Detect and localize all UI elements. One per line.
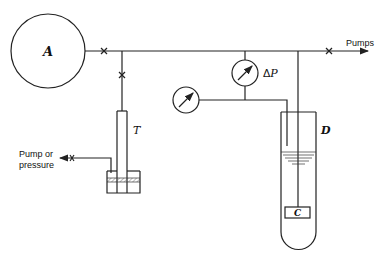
apparatus-diagram: A Pumps T xyxy=(0,0,385,263)
gauge-to-dewar-line xyxy=(199,100,287,146)
tube-t-label: T xyxy=(133,124,142,137)
pressure-gauge xyxy=(173,87,199,113)
sample-container-c: C xyxy=(285,207,310,218)
dewar-d: D xyxy=(281,112,331,250)
pump-or-pressure-label-line1: Pump or xyxy=(19,149,53,159)
delta-p-label: ΔP xyxy=(263,67,278,80)
pumps-label: Pumps xyxy=(346,38,375,48)
dewar-d-label: D xyxy=(320,124,331,137)
sample-c-label: C xyxy=(294,208,302,218)
differential-pressure-gauge: ΔP xyxy=(232,51,278,100)
liquid-reservoir xyxy=(107,171,140,193)
pump-or-pressure-label-line2: pressure xyxy=(19,160,54,170)
vessel-a: A xyxy=(11,14,85,88)
pump-or-pressure-line xyxy=(60,158,111,173)
vessel-a-label: A xyxy=(41,44,53,59)
